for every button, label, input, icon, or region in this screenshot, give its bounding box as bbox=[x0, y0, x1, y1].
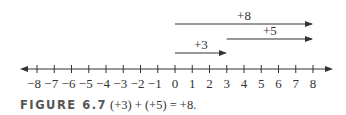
left-arrow-icon bbox=[20, 66, 28, 72]
vector-arrows: +8+5+3 bbox=[175, 8, 312, 53]
tick-label: 6 bbox=[275, 76, 282, 91]
axis-line bbox=[20, 66, 333, 72]
tick-label: −1 bbox=[148, 76, 162, 91]
tick-label: −4 bbox=[96, 76, 110, 91]
tick-label: −5 bbox=[79, 76, 93, 91]
number-line-figure: −8−7−6−5−4−3−2−1012345678 +8+5+3 bbox=[0, 0, 346, 98]
tick-label: 4 bbox=[241, 76, 248, 91]
tick-label: −7 bbox=[44, 76, 58, 91]
tick-label: −3 bbox=[113, 76, 127, 91]
vector-label: +5 bbox=[263, 23, 277, 38]
tick-label: −6 bbox=[62, 76, 76, 91]
tick-label: 1 bbox=[189, 76, 196, 91]
tick-label: 8 bbox=[310, 76, 317, 91]
tick-label: 0 bbox=[172, 76, 179, 91]
vector-label: +8 bbox=[237, 8, 251, 23]
tick-label: −8 bbox=[27, 76, 41, 91]
tick-labels: −8−7−6−5−4−3−2−1012345678 bbox=[27, 76, 316, 91]
tick-label: 2 bbox=[206, 76, 213, 91]
figure-label: FIGURE 6.7 bbox=[20, 98, 107, 112]
vector-label: +3 bbox=[194, 37, 208, 52]
right-arrow-icon bbox=[325, 66, 333, 72]
tick-label: 5 bbox=[258, 76, 265, 91]
tick-label: −2 bbox=[131, 76, 145, 91]
figure-caption-text: (+3) + (+5) = +8. bbox=[110, 98, 196, 112]
tick-label: 3 bbox=[224, 76, 231, 91]
figure-caption: FIGURE 6.7 (+3) + (+5) = +8. bbox=[20, 98, 196, 113]
tick-label: 7 bbox=[293, 76, 300, 91]
